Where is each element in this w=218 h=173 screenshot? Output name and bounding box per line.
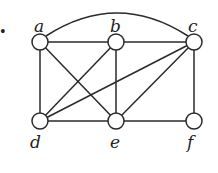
edge-c-e <box>116 42 194 121</box>
bullet-mark: • <box>0 23 6 40</box>
label-b: b <box>110 16 121 36</box>
node-a <box>32 34 48 50</box>
graph-diagram: • a b c d e f <box>0 0 218 173</box>
node-f <box>186 113 202 129</box>
label-e: e <box>110 132 120 152</box>
edge-c-d <box>40 42 194 121</box>
node-c <box>186 34 202 50</box>
node-b <box>108 34 124 50</box>
label-d: d <box>30 132 41 152</box>
node-d <box>32 113 48 129</box>
label-f: f <box>185 132 196 152</box>
label-c: c <box>188 16 198 36</box>
node-e <box>108 113 124 129</box>
label-a: a <box>34 16 44 36</box>
